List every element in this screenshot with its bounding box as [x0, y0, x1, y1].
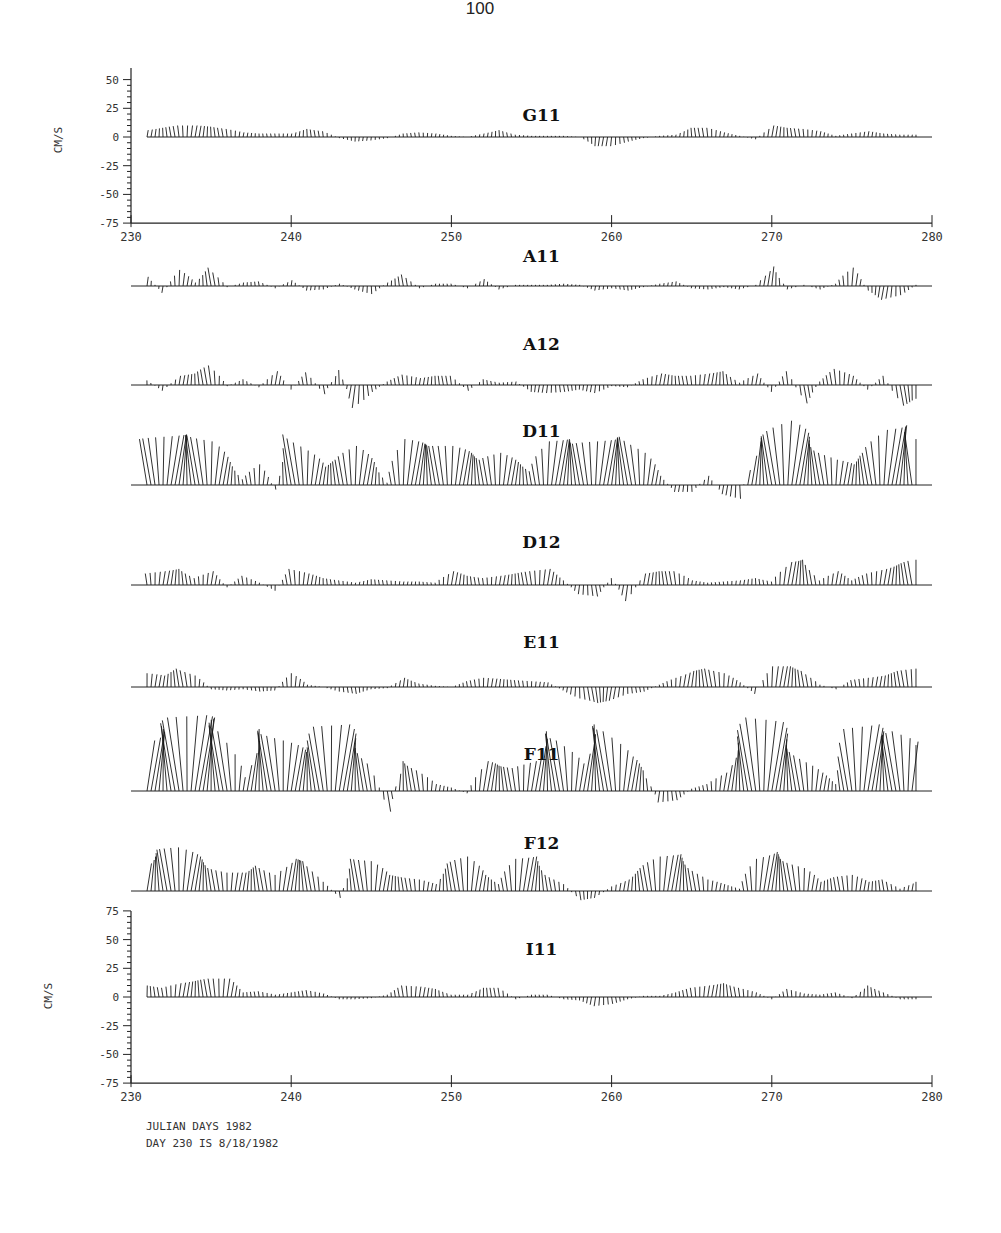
velocity-stick — [760, 378, 761, 385]
velocity-stick — [271, 134, 272, 137]
velocity-stick — [824, 455, 827, 485]
velocity-stick — [166, 987, 167, 997]
velocity-stick — [415, 443, 422, 485]
velocity-stick — [491, 381, 492, 385]
velocity-stick — [495, 679, 496, 687]
velocity-stick — [175, 570, 176, 585]
velocity-stick — [691, 376, 692, 385]
velocity-stick — [322, 726, 328, 791]
velocity-stick — [438, 376, 439, 385]
velocity-stick — [683, 990, 684, 997]
velocity-stick — [435, 884, 436, 891]
velocity-stick — [792, 865, 796, 891]
velocity-stick — [836, 460, 838, 485]
velocity-stick — [748, 579, 749, 585]
velocity-stick — [594, 891, 595, 898]
velocity-stick — [178, 126, 179, 137]
velocity-stick — [768, 271, 770, 286]
velocity-stick — [349, 869, 351, 891]
velocity-stick — [716, 130, 717, 137]
velocity-stick — [720, 776, 722, 791]
velocity-stick — [772, 666, 773, 687]
velocity-stick — [888, 568, 891, 585]
velocity-stick — [518, 573, 519, 585]
velocity-stick — [403, 678, 404, 687]
velocity-stick — [307, 451, 308, 485]
velocity-stick — [647, 862, 651, 891]
velocity-stick — [283, 994, 284, 997]
velocity-stick — [575, 585, 576, 591]
velocity-stick — [259, 687, 260, 692]
velocity-stick — [487, 678, 488, 687]
velocity-stick — [892, 567, 894, 585]
velocity-stick — [439, 990, 440, 997]
velocity-stick — [399, 774, 400, 791]
velocity-stick — [529, 471, 531, 485]
velocity-stick — [147, 277, 148, 286]
velocity-stick — [511, 680, 512, 687]
velocity-stick — [678, 376, 679, 385]
velocity-stick — [323, 467, 326, 485]
velocity-stick — [399, 680, 400, 687]
velocity-stick — [908, 738, 910, 791]
velocity-stick — [287, 743, 291, 791]
velocity-stick — [406, 278, 407, 286]
velocity-stick — [499, 679, 500, 687]
date-note: DAY 230 IS 8/18/1982 — [146, 1137, 278, 1150]
velocity-stick — [852, 268, 853, 286]
x-tick-label: 260 — [601, 230, 623, 244]
velocity-stick — [864, 880, 866, 891]
velocity-stick — [590, 442, 592, 485]
velocity-stick — [238, 579, 239, 585]
velocity-stick — [912, 742, 918, 791]
velocity-stick — [844, 729, 852, 791]
velocity-stick — [379, 868, 383, 891]
series-d12: D12 — [131, 532, 932, 601]
velocity-stick — [599, 891, 600, 895]
velocity-stick — [214, 371, 215, 385]
velocity-stick — [600, 687, 601, 702]
velocity-stick — [438, 446, 443, 485]
velocity-stick — [707, 128, 708, 137]
series-label: E11 — [523, 632, 560, 652]
velocity-stick — [219, 579, 220, 585]
velocity-stick — [559, 882, 560, 891]
velocity-stick — [282, 682, 283, 687]
velocity-stick — [582, 443, 587, 485]
velocity-stick — [688, 673, 691, 687]
velocity-stick — [498, 988, 499, 997]
velocity-stick — [548, 569, 551, 585]
velocity-stick — [397, 450, 399, 485]
velocity-stick — [879, 436, 880, 485]
velocity-stick — [423, 684, 424, 687]
velocity-stick — [648, 459, 651, 485]
velocity-stick — [208, 365, 211, 385]
velocity-stick — [479, 870, 483, 891]
velocity-stick — [764, 720, 766, 791]
velocity-stick — [447, 574, 448, 585]
velocity-stick — [331, 463, 332, 485]
velocity-stick — [263, 471, 265, 485]
velocity-stick — [215, 447, 219, 485]
velocity-stick — [896, 565, 897, 585]
velocity-stick — [643, 770, 644, 791]
velocity-stick — [876, 677, 878, 687]
velocity-stick — [208, 868, 211, 891]
velocity-stick — [180, 670, 183, 687]
velocity-stick — [798, 866, 800, 891]
velocity-stick — [698, 128, 700, 137]
velocity-stick — [684, 131, 685, 137]
x-tick-label: 270 — [761, 230, 783, 244]
velocity-stick — [791, 990, 792, 997]
velocity-stick — [871, 987, 872, 997]
velocity-stick — [856, 461, 857, 485]
velocity-stick — [431, 781, 432, 791]
velocity-stick — [395, 683, 396, 687]
velocity-stick — [720, 131, 721, 137]
velocity-stick — [891, 286, 892, 297]
velocity-stick — [724, 132, 725, 137]
velocity-stick — [306, 990, 307, 997]
velocity-stick — [371, 462, 374, 485]
velocity-stick — [831, 457, 832, 485]
velocity-stick — [523, 467, 524, 485]
